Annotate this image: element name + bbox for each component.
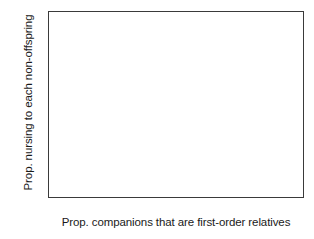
y-axis-label: Prop. nursing to each non-offspring bbox=[19, 0, 37, 205]
x-axis-label: Prop. companions that are first-order re… bbox=[48, 216, 304, 228]
plot-canvas bbox=[0, 0, 314, 239]
scatter-plot-figure: Prop. nursing to each non-offspring Prop… bbox=[0, 0, 314, 239]
axes-frame bbox=[49, 12, 304, 198]
axes-frame-rect bbox=[49, 12, 304, 198]
